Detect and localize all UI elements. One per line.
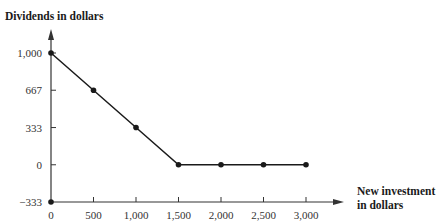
x-tick-label: 2,000 bbox=[209, 209, 234, 221]
y-tick-label: 1,000 bbox=[17, 47, 42, 59]
x-axis-arrow-icon bbox=[333, 199, 344, 205]
data-point bbox=[218, 162, 224, 168]
y-tick-label: 667 bbox=[26, 84, 43, 96]
data-point bbox=[303, 162, 309, 168]
axes bbox=[48, 29, 344, 205]
data-point bbox=[176, 162, 182, 168]
x-tick-label: 1,500 bbox=[166, 209, 191, 221]
x-tick-label: 500 bbox=[85, 209, 102, 221]
x-tick-label: 1,000 bbox=[124, 209, 149, 221]
y-axis-arrow-icon bbox=[48, 29, 54, 40]
x-tick-label: 2,500 bbox=[251, 209, 276, 221]
y-tick-label: −333 bbox=[19, 196, 42, 208]
axis-labels: 1,0006673330−33305001,0001,5002,0002,500… bbox=[5, 10, 435, 221]
data-series bbox=[48, 50, 309, 205]
data-line bbox=[51, 53, 306, 165]
chart: 1,0006673330−33305001,0001,5002,0002,500… bbox=[0, 0, 441, 224]
x-tick-label: 3,000 bbox=[294, 209, 319, 221]
data-point bbox=[133, 125, 139, 131]
data-point bbox=[91, 87, 97, 93]
data-point bbox=[48, 50, 54, 56]
y-tick-label: 333 bbox=[26, 122, 43, 134]
y-axis-title: Dividends in dollars bbox=[5, 10, 104, 22]
origin-marker bbox=[48, 199, 54, 205]
x-axis-title: in dollars bbox=[357, 199, 404, 211]
x-tick-label: 0 bbox=[48, 209, 54, 221]
x-axis-title: New investment bbox=[357, 185, 435, 197]
y-tick-label: 0 bbox=[37, 159, 43, 171]
data-point bbox=[261, 162, 267, 168]
